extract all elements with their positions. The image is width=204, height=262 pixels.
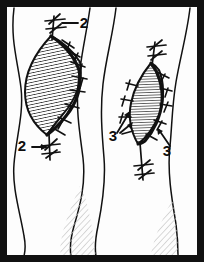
label-3-right: 3 <box>163 142 171 159</box>
illustration-canvas: 2 2 3 3 <box>0 0 204 262</box>
surgical-illustration-figure: 2 2 3 3 <box>0 0 204 262</box>
label-2-bottom: 2 <box>18 137 26 154</box>
label-3-left: 3 <box>109 127 117 144</box>
label-2-top: 2 <box>80 14 88 31</box>
